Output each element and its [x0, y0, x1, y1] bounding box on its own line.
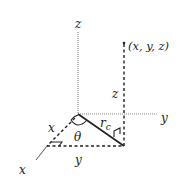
point-marker: [123, 42, 126, 45]
angle-label: θ: [74, 130, 82, 144]
z-axis-label: z: [74, 17, 82, 31]
y-component-label: y: [74, 153, 82, 167]
x-component-label: x: [48, 121, 55, 135]
angle-arc: [71, 120, 87, 125]
radius-label-subscript: c: [106, 122, 111, 132]
point-label: (x, y, z): [128, 39, 169, 53]
radius-label: rc: [100, 116, 111, 132]
cylindrical-coordinates-diagram: z y x (x, y, z) z rc x θ y: [0, 0, 181, 187]
right-angle-mark-height: [114, 128, 120, 137]
y-axis-label: y: [160, 111, 168, 125]
x-axis: [36, 146, 47, 160]
height-label: z: [111, 87, 119, 101]
x-axis-label: x: [19, 163, 26, 177]
